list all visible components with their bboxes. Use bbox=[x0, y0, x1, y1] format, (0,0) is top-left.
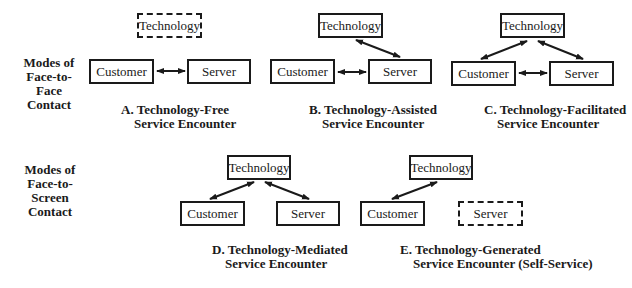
caption-line: Service Encounter bbox=[484, 117, 626, 131]
node-label: Customer bbox=[96, 64, 147, 80]
caption-line: B. Technology-Assisted bbox=[309, 102, 437, 117]
panel-c-customer-node: Customer bbox=[451, 61, 516, 86]
caption-line: C. Technology-Facilitated bbox=[484, 102, 626, 117]
caption-line: Service Encounter bbox=[121, 117, 236, 131]
panel-c-caption: C. Technology-Facilitated Service Encoun… bbox=[484, 103, 626, 131]
panel-e-server-node-absent: Server bbox=[458, 201, 523, 226]
panel-b-caption: B. Technology-Assisted Service Encounter bbox=[309, 103, 437, 131]
panel-a-caption: A. Technology-Free Service Encounter bbox=[121, 103, 236, 131]
caption-line: Service Encounter (Self-Service) bbox=[400, 257, 593, 271]
panel-e-caption: E. Technology-Generated Service Encounte… bbox=[400, 243, 593, 271]
panel-a-customer-node: Customer bbox=[89, 59, 154, 84]
panel-c-server-node: Server bbox=[549, 61, 614, 86]
panel-b-technology-node: Technology bbox=[318, 13, 383, 38]
node-label: Customer bbox=[187, 206, 238, 222]
panel-c-technology-node: Technology bbox=[500, 13, 565, 38]
node-label: Technology bbox=[502, 18, 563, 34]
node-label: Customer bbox=[367, 206, 418, 222]
caption-line: A. Technology-Free bbox=[121, 102, 229, 117]
node-label: Server bbox=[383, 64, 417, 80]
node-label: Technology bbox=[410, 160, 471, 176]
panel-a-technology-node-absent: Technology bbox=[137, 13, 202, 38]
panel-d-customer-node: Customer bbox=[180, 201, 245, 226]
caption-line: Service Encounter bbox=[212, 257, 348, 271]
caption-line: Service Encounter bbox=[309, 117, 437, 131]
node-label: Customer bbox=[458, 66, 509, 82]
caption-line: E. Technology-Generated bbox=[400, 242, 541, 257]
panel-e-customer-node: Customer bbox=[360, 201, 425, 226]
node-label: Technology bbox=[228, 160, 289, 176]
panel-d-server-node: Server bbox=[276, 201, 340, 226]
panel-b-customer-node: Customer bbox=[270, 59, 335, 84]
node-label: Server bbox=[291, 206, 325, 222]
node-label: Customer bbox=[277, 64, 328, 80]
node-label: Server bbox=[202, 64, 236, 80]
panel-e-technology-node: Technology bbox=[409, 155, 473, 180]
node-label: Technology bbox=[320, 18, 381, 34]
caption-line: D. Technology-Mediated bbox=[212, 242, 348, 257]
panel-b-server-node: Server bbox=[368, 59, 432, 84]
node-label: Technology bbox=[139, 18, 200, 34]
node-label: Server bbox=[474, 206, 508, 222]
panel-a-server-node: Server bbox=[187, 59, 251, 84]
panel-d-technology-node: Technology bbox=[227, 155, 291, 180]
panel-d-caption: D. Technology-Mediated Service Encounter bbox=[212, 243, 348, 271]
node-label: Server bbox=[565, 66, 599, 82]
